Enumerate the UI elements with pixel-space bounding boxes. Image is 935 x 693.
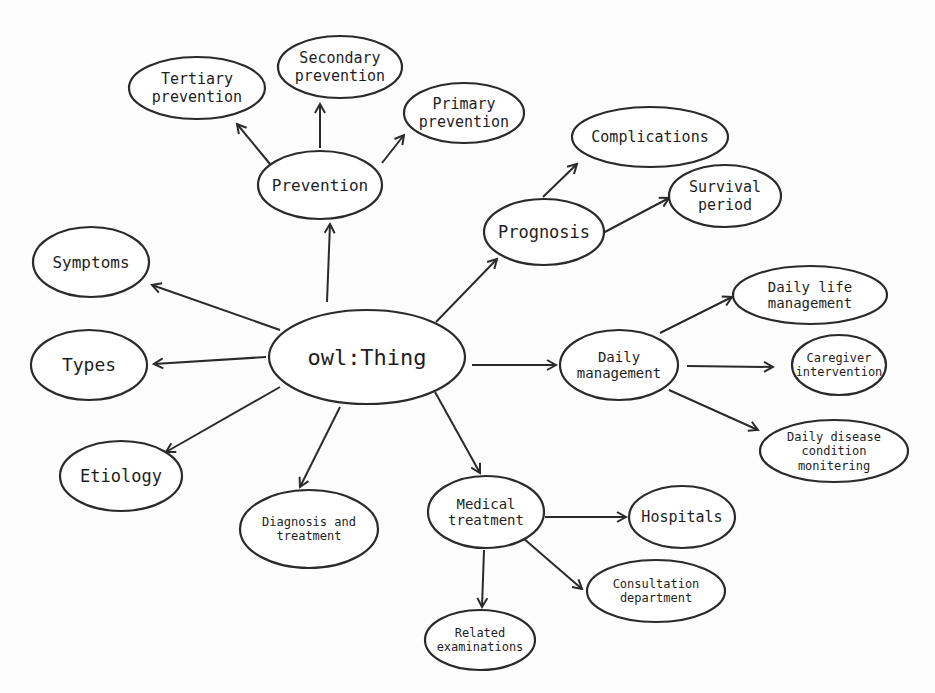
node-label: prevention: [295, 67, 385, 85]
edge-medical-treatment-to-related-examinations: [482, 550, 484, 607]
edge-owl-thing-to-symptoms: [152, 285, 280, 330]
node-etiology: Etiology: [60, 441, 182, 511]
node-label: Types: [62, 354, 116, 375]
node-diagnosis-and-treatment: Diagnosis andtreatment: [240, 490, 378, 568]
node-types: Types: [31, 330, 147, 400]
node-label: Etiology: [80, 466, 162, 486]
node-label: Hospitals: [641, 508, 722, 526]
nodes-layer: owl:ThingPreventionTertiarypreventionSec…: [31, 36, 908, 670]
node-label: Medical: [456, 496, 515, 512]
edge-daily-management-to-daily-life-management: [660, 297, 732, 333]
node-symptoms: Symptoms: [33, 227, 149, 297]
node-label: treatment: [276, 529, 341, 543]
node-consultation-department: Consultationdepartment: [587, 560, 725, 622]
edge-owl-thing-to-medical-treatment: [435, 392, 480, 473]
edge-daily-management-to-daily-disease-condition-monitering: [669, 390, 758, 430]
node-daily-management: Dailymanagement: [560, 330, 678, 400]
edge-owl-thing-to-types: [154, 357, 266, 364]
node-daily-life-management: Daily lifemanagement: [733, 266, 887, 324]
node-label: Daily: [598, 349, 640, 365]
node-daily-disease-condition-monitering: Daily diseaseconditionmonitering: [760, 420, 908, 482]
node-label: intervention: [796, 365, 883, 379]
node-label: department: [620, 591, 692, 605]
node-label: treatment: [448, 512, 524, 528]
node-label: period: [698, 196, 752, 214]
node-label: prevention: [419, 113, 509, 131]
node-label: prevention: [152, 88, 242, 106]
node-label: Consultation: [613, 577, 700, 591]
edge-owl-thing-to-prevention: [327, 224, 330, 302]
node-label: Prevention: [272, 176, 368, 195]
node-label: Secondary: [299, 49, 380, 67]
node-medical-treatment: Medicaltreatment: [428, 476, 544, 548]
node-tertiary-prevention: Tertiaryprevention: [129, 57, 265, 119]
node-label: Caregiver: [806, 351, 871, 365]
node-primary-prevention: Primaryprevention: [404, 83, 524, 143]
node-label: Complications: [591, 128, 708, 146]
edge-medical-treatment-to-consultation-department: [523, 538, 582, 589]
ontology-diagram: owl:ThingPreventionTertiarypreventionSec…: [0, 0, 935, 693]
node-secondary-prevention: Secondaryprevention: [278, 36, 402, 98]
edge-owl-thing-to-diagnosis-and-treatment: [300, 407, 340, 487]
node-label: owl:Thing: [307, 345, 426, 370]
node-label: management: [577, 365, 661, 381]
node-label: Related: [455, 626, 506, 640]
edge-daily-management-to-caregiver-intervention: [687, 366, 773, 367]
node-hospitals: Hospitals: [629, 486, 735, 548]
node-related-examinations: Relatedexaminations: [425, 610, 535, 670]
edge-prognosis-to-survival-period: [603, 198, 669, 233]
node-label: Daily disease: [787, 430, 881, 444]
node-caregiver-intervention: Caregiverintervention: [792, 335, 886, 395]
node-label: Symptoms: [52, 253, 129, 272]
edge-prevention-to-primary-prevention: [382, 135, 404, 163]
node-prognosis: Prognosis: [484, 199, 604, 265]
node-complications: Complications: [572, 107, 728, 167]
node-prevention: Prevention: [258, 151, 382, 219]
edge-prevention-to-tertiary-prevention: [237, 124, 270, 164]
edge-owl-thing-to-etiology: [166, 387, 280, 452]
diagram-svg: owl:ThingPreventionTertiarypreventionSec…: [0, 0, 935, 693]
node-owl-thing: owl:Thing: [269, 310, 465, 404]
edge-owl-thing-to-prognosis: [436, 259, 497, 322]
edge-prognosis-to-complications: [543, 164, 577, 197]
node-label: Survival: [689, 178, 761, 196]
node-label: Tertiary: [161, 70, 233, 88]
node-label: monitering: [798, 459, 870, 473]
node-survival-period: Survivalperiod: [669, 165, 781, 227]
node-label: examinations: [437, 640, 524, 654]
node-label: condition: [801, 444, 866, 458]
node-label: Daily life: [768, 279, 852, 295]
node-label: Diagnosis and: [262, 515, 356, 529]
node-label: Primary: [432, 95, 495, 113]
node-label: Prognosis: [498, 222, 590, 242]
node-label: management: [768, 295, 852, 311]
